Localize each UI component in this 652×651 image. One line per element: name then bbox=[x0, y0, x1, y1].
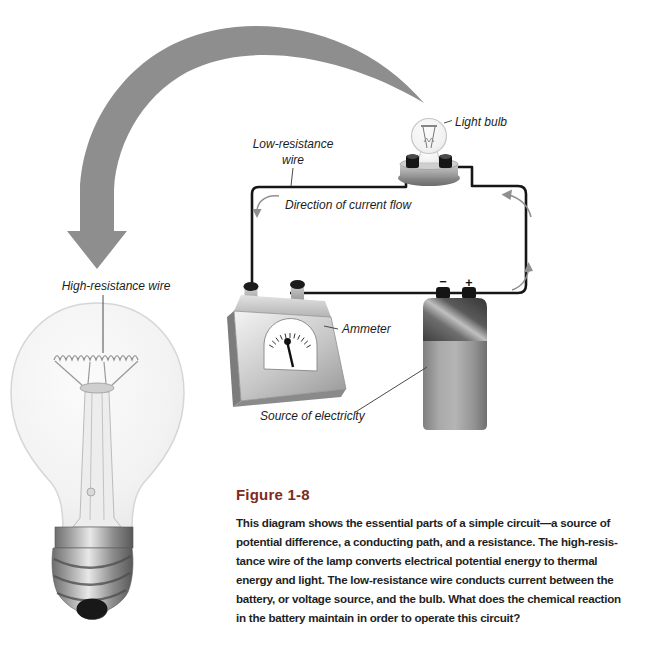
ammeter-needle-pivot bbox=[284, 338, 291, 345]
label-leader-line bbox=[291, 168, 293, 186]
stem-pip bbox=[87, 488, 95, 496]
figure-label: Figure 1-8 bbox=[236, 486, 650, 503]
ammeter-dial bbox=[264, 318, 317, 371]
socket-terminal bbox=[406, 154, 419, 168]
label-low-resistance-wire-2: wire bbox=[282, 153, 304, 167]
small-light-bulb bbox=[398, 119, 460, 187]
bulb-glass bbox=[412, 119, 447, 154]
figure-caption: Figure 1-8 This diagram shows the essent… bbox=[236, 486, 650, 627]
large-light-bulb bbox=[11, 303, 184, 620]
bulb-screw-base bbox=[52, 527, 133, 620]
label-direction-of-current-flow: Direction of current flow bbox=[285, 198, 412, 212]
stem-collar bbox=[80, 383, 114, 393]
battery: − + bbox=[423, 275, 487, 430]
label-source-of-electricity: Source of electricity bbox=[260, 409, 366, 423]
current-arrow-left bbox=[253, 196, 280, 218]
figure-page: High-resistance wire Light bulb Low-resi… bbox=[0, 0, 652, 651]
ammeter bbox=[227, 280, 346, 407]
label-leader-line bbox=[444, 121, 452, 124]
label-ammeter: Ammeter bbox=[341, 322, 392, 336]
figure-caption-text: This diagram shows the essential parts o… bbox=[236, 513, 650, 627]
label-leader-line bbox=[354, 367, 427, 413]
battery-top-section bbox=[423, 298, 487, 341]
emphasis-arrow bbox=[67, 26, 424, 269]
battery-positive-sign: + bbox=[465, 276, 472, 290]
label-light-bulb: Light bulb bbox=[455, 115, 507, 129]
socket-terminal bbox=[439, 154, 452, 168]
battery-negative-sign: − bbox=[439, 275, 446, 289]
current-arrow-bottom-right bbox=[512, 262, 533, 290]
base-contact-tip bbox=[77, 599, 108, 620]
battery-body bbox=[423, 341, 487, 430]
base-collar bbox=[55, 527, 133, 548]
label-low-resistance-wire: Low-resistance bbox=[253, 137, 334, 151]
circuit-wire bbox=[252, 167, 526, 293]
label-high-resistance-wire: High-resistance wire bbox=[62, 279, 171, 293]
